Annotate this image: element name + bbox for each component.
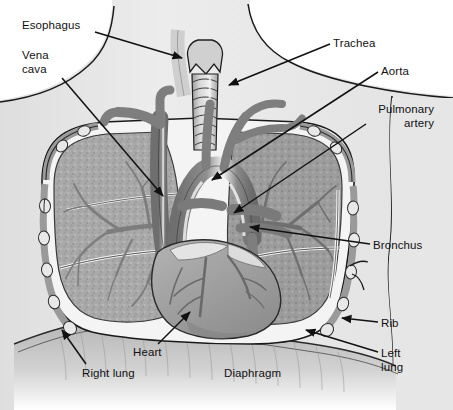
label-heart: Heart: [133, 345, 162, 359]
label-right-lung: Right lung: [82, 366, 135, 380]
label-aorta: Aorta: [381, 64, 409, 78]
label-trachea: Trachea: [333, 36, 375, 50]
label-diaphragm: Diaphragm: [224, 366, 281, 380]
label-bronchus: Bronchus: [373, 238, 422, 252]
label-pulmonary-artery: Pulmonary artery: [368, 102, 434, 130]
esophagus: [177, 30, 184, 96]
label-left-lung: Left lung: [381, 346, 403, 374]
anatomy-figure-page: Esophagus Vena cava Trachea Aorta Pulmon…: [0, 0, 453, 410]
label-esophagus: Esophagus: [22, 18, 80, 32]
label-rib: Rib: [381, 316, 399, 330]
label-vena-cava: Vena cava: [22, 48, 49, 76]
